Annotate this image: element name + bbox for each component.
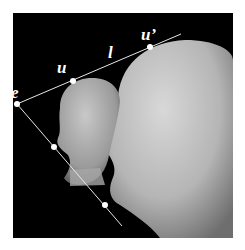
point-u-prime: [147, 44, 153, 50]
label-u: u: [57, 59, 66, 76]
figure: e u l u’: [0, 0, 245, 250]
point-u: [70, 78, 76, 84]
label-u-prime: u’: [141, 26, 156, 43]
small-neck: [70, 168, 105, 186]
label-e: e: [11, 84, 19, 101]
figure-illustration: [0, 0, 245, 250]
point-lower-1: [51, 144, 57, 150]
label-l: l: [108, 44, 113, 61]
point-lower-2: [102, 202, 108, 208]
